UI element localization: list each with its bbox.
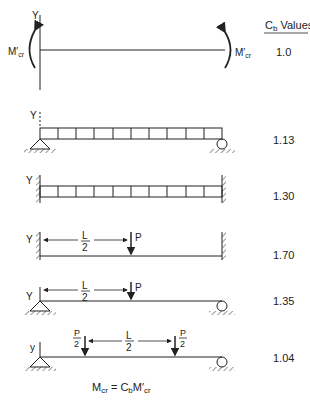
moment-arrow-left-icon bbox=[30, 30, 36, 68]
pin-support-icon bbox=[30, 139, 50, 149]
case-fixed-udl: Y 1.30 bbox=[26, 175, 294, 203]
svg-text:P: P bbox=[135, 232, 142, 243]
svg-text:1.30: 1.30 bbox=[273, 190, 294, 202]
svg-text:1.04: 1.04 bbox=[273, 352, 294, 364]
svg-text:P: P bbox=[135, 282, 142, 293]
svg-text:2: 2 bbox=[126, 342, 132, 353]
cb-header: Cb Values bbox=[264, 19, 310, 33]
case-fixed-center-point: Y L 2 P 1.70 bbox=[26, 230, 294, 261]
case-simple-two-point: y P 2 P 2 L 2 1.04 bbox=[24, 328, 294, 371]
fixed-support-icon bbox=[36, 175, 40, 203]
svg-text:L: L bbox=[82, 280, 88, 291]
svg-text:1.13: 1.13 bbox=[273, 134, 294, 146]
formula: Mcr = CbM′cr bbox=[92, 381, 151, 395]
svg-text:Cb Values: Cb Values bbox=[265, 19, 310, 33]
svg-text:2: 2 bbox=[82, 292, 88, 303]
svg-text:1.70: 1.70 bbox=[273, 249, 294, 261]
svg-text:M′cr: M′cr bbox=[8, 46, 25, 58]
svg-text:Y: Y bbox=[32, 10, 39, 21]
cb-values-diagram: Cb Values Y M′cr M′cr 1.0 Y 1.13 Y bbox=[0, 0, 310, 404]
svg-text:L: L bbox=[126, 330, 132, 341]
svg-text:M′cr: M′cr bbox=[235, 47, 252, 59]
svg-text:Y: Y bbox=[26, 175, 33, 186]
svg-text:P: P bbox=[180, 328, 186, 338]
case-uniform-moment: Y M′cr M′cr 1.0 bbox=[8, 10, 291, 90]
svg-text:Y: Y bbox=[26, 291, 33, 302]
svg-text:L: L bbox=[82, 230, 88, 241]
svg-text:P: P bbox=[74, 328, 80, 338]
svg-text:Y: Y bbox=[30, 110, 37, 121]
svg-text:2: 2 bbox=[74, 339, 79, 349]
svg-text:Y: Y bbox=[26, 234, 33, 245]
svg-text:2: 2 bbox=[180, 339, 185, 349]
moment-arrow-right-icon bbox=[225, 32, 231, 68]
svg-text:2: 2 bbox=[82, 242, 88, 253]
svg-text:y: y bbox=[30, 342, 35, 353]
case-simple-udl: Y 1.13 bbox=[24, 110, 294, 153]
svg-text:1.35: 1.35 bbox=[273, 295, 294, 307]
roller-support-icon bbox=[217, 139, 227, 149]
cb-value: 1.0 bbox=[276, 46, 291, 58]
fixed-support-icon bbox=[222, 175, 226, 203]
case-simple-center-point: Y L 2 P 1.35 bbox=[24, 280, 294, 315]
